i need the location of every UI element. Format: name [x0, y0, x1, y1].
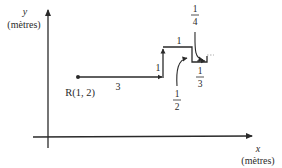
svg-text:1: 1 [175, 89, 180, 99]
segment-right-1-and-steps [163, 47, 207, 62]
pointer-arrow-quarter [195, 32, 203, 60]
svg-text:4: 4 [193, 17, 198, 27]
point-r-label: R(1, 2) [65, 87, 95, 99]
pointer-arrow-half [177, 58, 187, 86]
x-axis [33, 136, 252, 137]
displacement-diagram: y (mètres) x (mètres) R(1, 2) 3 1 1 1 4 … [0, 0, 282, 168]
svg-text:1: 1 [193, 4, 198, 14]
fraction-one-third: 1 3 [196, 66, 204, 89]
x-axis-unit: (mètres) [241, 155, 274, 167]
svg-text:2: 2 [175, 102, 180, 112]
svg-text:1: 1 [198, 66, 203, 76]
fraction-one-half: 1 2 [173, 89, 181, 112]
segment-label-3: 3 [116, 81, 121, 92]
svg-text:3: 3 [198, 79, 203, 89]
y-axis-unit: (mètres) [7, 19, 40, 31]
y-axis-var: y [22, 6, 28, 17]
segment-label-up-1: 1 [156, 62, 161, 73]
segment-label-right-1: 1 [177, 35, 182, 46]
x-axis-var: x [255, 143, 261, 154]
fraction-one-quarter: 1 4 [191, 4, 199, 27]
